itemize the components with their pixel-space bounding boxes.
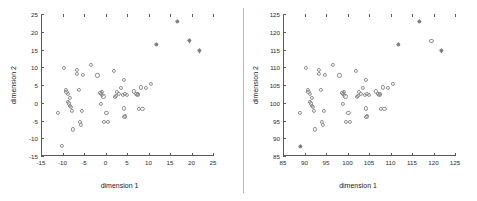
x-axis-label-left: dimension 1 [101, 182, 139, 190]
data-point-marker [322, 109, 326, 113]
y-tick [283, 138, 286, 139]
x-tick-top [434, 14, 435, 17]
data-point-marker [312, 109, 316, 113]
y-tick-label: 100 [266, 99, 280, 106]
plot-area-left [41, 14, 213, 156]
x-tick [434, 153, 435, 156]
x-tick [326, 153, 327, 156]
x-tick [106, 153, 107, 156]
y-tick [41, 138, 44, 139]
x-tick-label: 105 [364, 159, 374, 166]
x-tick [305, 153, 306, 156]
x-tick-label: 85 [280, 159, 287, 166]
data-point-marker [317, 72, 321, 76]
x-tick-top [106, 14, 107, 17]
data-point-marker [308, 91, 312, 95]
plot-area-right [283, 14, 455, 156]
data-point-marker [298, 111, 302, 115]
x-tick-label: 20 [188, 159, 195, 166]
data-point-marker [144, 86, 148, 90]
y-tick-label: 125 [266, 11, 280, 18]
outlier-marker [396, 42, 401, 47]
x-tick-top [348, 14, 349, 17]
data-point-marker [125, 93, 129, 97]
y-tick-label: 25 [24, 11, 38, 18]
y-tick [283, 103, 286, 104]
data-point-marker [89, 63, 93, 67]
data-point-marker [331, 63, 335, 67]
outlier-marker [439, 48, 444, 53]
data-point-marker [391, 82, 395, 86]
y-tick-label: 20 [24, 28, 38, 35]
x-tick-label: 125 [450, 159, 460, 166]
x-tick-label: 5 [125, 159, 128, 166]
y-tick-label: -5 [24, 117, 38, 124]
y-tick [283, 121, 286, 122]
data-point-marker [75, 72, 79, 76]
data-point-marker [313, 127, 317, 131]
data-point-marker [361, 86, 365, 90]
x-tick-top [149, 14, 150, 17]
data-point-marker [365, 113, 369, 117]
x-tick-label: 90 [301, 159, 308, 166]
data-point-marker [95, 73, 99, 77]
data-point-marker [364, 78, 368, 82]
data-point-marker [343, 94, 347, 98]
axes-right: 8590951001051101151201258590951001051101… [283, 14, 455, 156]
figure-root: -15-10-50510152025-15-10-50510152025 dim… [0, 0, 477, 201]
x-tick-label: -15 [37, 159, 46, 166]
x-tick-top [412, 14, 413, 17]
y-tick-label: 105 [266, 82, 280, 89]
outlier-marker [417, 19, 422, 24]
x-tick [348, 153, 349, 156]
x-tick [213, 153, 214, 156]
x-tick-top [84, 14, 85, 17]
x-tick [84, 153, 85, 156]
x-tick-label: -10 [58, 159, 67, 166]
data-point-marker [99, 102, 103, 106]
data-point-marker [341, 102, 345, 106]
x-tick-label: 25 [210, 159, 217, 166]
y-tick-label: 0 [24, 99, 38, 106]
data-point-marker [81, 73, 85, 77]
y-tick-label: 115 [266, 46, 280, 53]
y-tick-label: 15 [24, 46, 38, 53]
data-point-marker [323, 73, 327, 77]
outlier-marker [298, 144, 303, 149]
data-point-marker [321, 123, 325, 127]
data-point-marker [79, 123, 83, 127]
data-point-marker [429, 39, 433, 43]
data-point-marker [66, 91, 70, 95]
y-tick [283, 14, 286, 15]
data-point-marker [382, 107, 386, 111]
x-tick [170, 153, 171, 156]
outlier-marker [187, 38, 192, 43]
y-tick [41, 14, 44, 15]
x-tick [412, 153, 413, 156]
x-tick-label: -5 [81, 159, 87, 166]
x-tick-label: 110 [386, 159, 396, 166]
data-point-marker [348, 120, 352, 124]
data-point-marker [122, 78, 126, 82]
data-point-marker [140, 107, 144, 111]
x-tick-top [391, 14, 392, 17]
x-tick-label: 100 [342, 159, 352, 166]
x-tick-top [213, 14, 214, 17]
y-tick [283, 67, 286, 68]
y-tick [283, 50, 286, 51]
y-tick [41, 32, 44, 33]
x-tick [192, 153, 193, 156]
x-tick [369, 153, 370, 156]
data-point-marker [68, 96, 72, 100]
y-tick [283, 32, 286, 33]
data-point-marker [386, 86, 390, 90]
y-tick [41, 50, 44, 51]
data-point-marker [101, 94, 105, 98]
data-point-marker [60, 144, 64, 148]
scatter-panel-right: 8590951001051101151201258590951001051101… [239, 0, 477, 201]
y-tick-label: 95 [266, 117, 280, 124]
data-point-marker [121, 106, 125, 110]
y-tick [41, 121, 44, 122]
x-tick-top [63, 14, 64, 17]
x-tick-label: 120 [428, 159, 438, 166]
